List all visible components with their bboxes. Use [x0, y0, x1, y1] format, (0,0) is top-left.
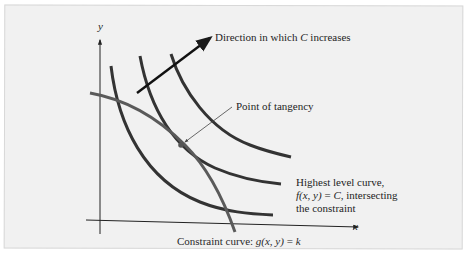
highest-label-var: C: [333, 189, 340, 201]
x-axis: [86, 220, 358, 227]
direction-label: Direction in which C increases: [215, 31, 351, 44]
constraint-label-func: g(x, y): [256, 235, 284, 247]
constraint-label-prefix: Constraint curve:: [177, 235, 256, 247]
tangency-point: [178, 142, 184, 148]
direction-label-prefix: Direction in which: [215, 31, 300, 43]
level-curve-1: [111, 66, 273, 215]
constraint-curve: [90, 93, 235, 232]
highest-label-func: f(x, y): [296, 189, 322, 201]
constraint-label: Constraint curve: g(x, y) = k: [177, 235, 301, 248]
constraint-label-var: k: [296, 235, 301, 247]
x-axis-label: x: [353, 220, 358, 233]
constraint-label-eq: =: [284, 235, 296, 247]
tangency-label: Point of tangency: [236, 100, 314, 113]
highest-label-rest: , intersecting: [341, 189, 398, 201]
y-axis-label: y: [98, 20, 103, 33]
highest-label-line3: the constraint: [296, 202, 398, 215]
highest-level-curve-label: Highest level curve, f(x, y) = C, inters…: [296, 176, 398, 215]
highest-label-line2: f(x, y) = C, intersecting: [296, 189, 398, 202]
tangency-leader: [185, 107, 232, 142]
direction-label-var: C: [300, 31, 307, 43]
highest-label-line1: Highest level curve,: [296, 176, 398, 189]
highest-label-eq: =: [322, 189, 334, 201]
direction-arrow: [137, 38, 210, 93]
direction-label-suffix: increases: [308, 31, 351, 43]
